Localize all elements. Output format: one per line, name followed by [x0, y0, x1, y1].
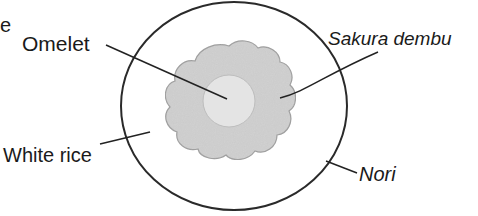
omelet-label: Omelet	[22, 33, 90, 54]
omelet-region	[203, 75, 255, 127]
sakura-dembu-label: Sakura dembu	[328, 29, 452, 48]
truncated-label-fragment: e	[0, 15, 11, 35]
white-rice-label: White rice	[3, 145, 92, 165]
nori-label: Nori	[359, 164, 396, 184]
nori-leader-line	[326, 161, 357, 173]
